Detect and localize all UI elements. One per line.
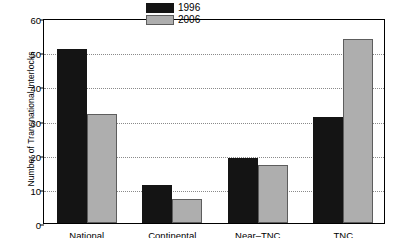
x-axis-label: Near–TNC	[235, 230, 280, 238]
bar-chart-figure: Number of Transnational Interlocks 01020…	[0, 0, 408, 238]
y-tick-label-20: 20	[30, 151, 41, 162]
legend-label: 2006	[178, 15, 200, 25]
bar	[313, 117, 343, 223]
y-tick-label-30: 30	[30, 117, 41, 128]
x-axis-label: TNC	[333, 230, 353, 238]
bar	[228, 158, 258, 223]
plot-area: 0102030405060 NationalContinentalNear–TN…	[43, 19, 385, 224]
legend-item: 1996	[146, 2, 200, 13]
bar-group	[142, 20, 202, 223]
bar	[172, 199, 202, 223]
y-tick-label-60: 60	[30, 15, 41, 26]
legend-item: 2006	[146, 14, 200, 25]
legend-label: 1996	[178, 3, 200, 13]
bar-group	[57, 20, 117, 223]
legend-swatch-1996	[146, 3, 174, 13]
bar	[87, 114, 117, 223]
bar	[142, 185, 172, 223]
y-tick-label-40: 40	[30, 83, 41, 94]
x-axis-label: National	[69, 230, 104, 238]
legend-swatch-2006	[146, 15, 174, 25]
bar	[343, 39, 373, 224]
chart-legend: 19962006	[146, 2, 200, 25]
bar-group	[313, 20, 373, 223]
bar	[57, 49, 87, 223]
y-tick-label-50: 50	[30, 49, 41, 60]
bar	[258, 165, 288, 223]
x-axis-label: Continental	[148, 230, 196, 238]
y-tick-label-10: 10	[30, 185, 41, 196]
bar-group	[228, 20, 288, 223]
y-tick-label-0: 0	[36, 220, 41, 231]
